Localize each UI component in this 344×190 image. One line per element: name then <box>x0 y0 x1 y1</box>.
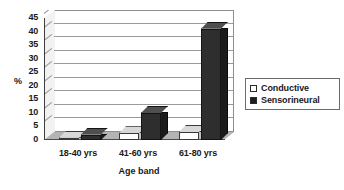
legend-label-conductive: Conductive <box>261 83 309 94</box>
x-axis-title: Age band <box>44 166 234 177</box>
x-axis-tick-label: 18-40 yrs <box>48 148 108 159</box>
legend-label-sensorineural: Sensorineural <box>261 95 320 106</box>
y-axis-tick-label: 20 <box>16 81 38 90</box>
legend-item-conductive: Conductive <box>250 82 335 94</box>
y-axis-tick-label: 45 <box>16 13 38 22</box>
y-axis-tick-label: 35 <box>16 40 38 49</box>
y-axis-tick-label: 30 <box>16 54 38 63</box>
y-axis-tick-label: 40 <box>16 27 38 36</box>
bar-sensorineural-18-40-yrs <box>81 135 101 140</box>
bar-conductive-18-40-yrs <box>59 138 79 140</box>
legend-item-sensorineural: Sensorineural <box>250 94 335 106</box>
bar-conductive-41-60-yrs <box>119 133 139 140</box>
x-axis-tick-label: 41-60 yrs <box>108 148 168 159</box>
plot-area <box>44 10 234 140</box>
y-axis-tick-label: 15 <box>16 94 38 103</box>
y-axis-tick-label: 25 <box>16 67 38 76</box>
y-axis-tick-label: 5 <box>16 121 38 130</box>
y-axis-tick-labels: 051015202530354045 <box>16 10 38 140</box>
chart-legend: Conductive Sensorineural <box>245 78 340 110</box>
legend-swatch-sensorineural-icon <box>250 97 257 104</box>
bar-front-face <box>179 132 199 140</box>
bar-front-face <box>81 135 101 140</box>
x-axis-tick-labels: 18-40 yrs41-60 yrs61-80 yrs <box>44 148 234 160</box>
y-axis-tick-label: 0 <box>16 135 38 144</box>
bar-front-face <box>119 133 139 140</box>
x-axis-tick-label: 61-80 yrs <box>168 148 228 159</box>
bar-chart: % 051015202530354045 18-40 yrs41-60 yrs6… <box>0 0 344 190</box>
y-axis-tick-label: 10 <box>16 108 38 117</box>
bar-front-face <box>59 138 79 140</box>
bar-sensorineural-41-60-yrs <box>141 113 161 140</box>
bar-side-face <box>221 28 228 140</box>
bar-front-face <box>141 113 161 140</box>
bar-side-face <box>101 134 108 140</box>
bar-sensorineural-61-80-yrs <box>201 29 221 140</box>
legend-swatch-conductive-icon <box>250 85 257 92</box>
bar-side-face <box>161 112 168 140</box>
bars-layer <box>44 10 234 140</box>
bar-front-face <box>201 29 221 140</box>
bar-conductive-61-80-yrs <box>179 132 199 140</box>
